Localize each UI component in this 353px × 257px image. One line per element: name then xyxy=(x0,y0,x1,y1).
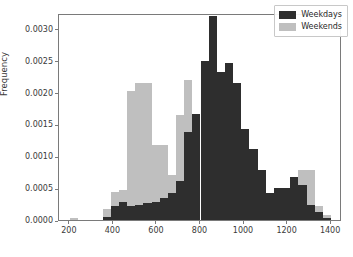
histogram-bar xyxy=(135,205,143,220)
legend-label-weekdays: Weekdays xyxy=(301,9,342,21)
histogram-bar xyxy=(233,83,241,220)
legend-item-weekends: Weekends xyxy=(279,21,342,33)
legend: Weekdays Weekends xyxy=(274,5,348,37)
histogram-bar xyxy=(111,206,119,220)
x-tick-label: 600 xyxy=(148,225,163,237)
histogram-bar xyxy=(135,83,143,220)
plot-area xyxy=(58,14,341,221)
x-tick-mark xyxy=(199,221,200,224)
histogram-bar xyxy=(160,198,168,220)
x-tick-label: 1000 xyxy=(233,225,253,237)
histogram-bar xyxy=(298,185,306,220)
histogram-bar xyxy=(127,206,135,220)
y-tick-label: 0.0025 xyxy=(25,56,53,68)
y-tick-label: 0.0030 xyxy=(25,24,53,36)
histogram-bar xyxy=(143,83,151,220)
y-tick-label: 0.0000 xyxy=(25,215,53,227)
histogram-bar xyxy=(225,63,233,220)
histogram-bar xyxy=(241,129,249,220)
x-tick-mark xyxy=(243,221,244,224)
x-tick-mark xyxy=(112,221,113,224)
histogram-bar xyxy=(143,203,151,220)
x-tick-mark xyxy=(330,221,331,224)
histogram-bar xyxy=(217,72,225,220)
histogram-bar xyxy=(176,181,184,220)
histogram-bar xyxy=(209,16,217,220)
histogram-bar xyxy=(249,149,257,220)
x-tick-label: 200 xyxy=(61,225,76,237)
histogram-bar xyxy=(201,61,209,220)
y-tick-label: 0.0015 xyxy=(25,119,53,131)
histogram-bar xyxy=(127,91,135,220)
histogram-bar xyxy=(290,177,298,220)
y-axis: Frequency 0.00000.00050.00100.00150.0020… xyxy=(0,14,58,221)
legend-swatch-weekends xyxy=(279,23,296,31)
histogram-bar xyxy=(282,188,290,220)
y-axis-label: Frequency xyxy=(0,52,9,96)
x-tick-label: 1400 xyxy=(320,225,340,237)
histogram-bar xyxy=(152,202,160,220)
y-tick-label: 0.0005 xyxy=(25,183,53,195)
histogram-bar xyxy=(184,132,192,220)
histogram-bar xyxy=(323,218,331,220)
x-tick-mark xyxy=(155,221,156,224)
x-tick-mark xyxy=(68,221,69,224)
x-tick-label: 800 xyxy=(192,225,207,237)
legend-swatch-weekdays xyxy=(279,11,296,19)
x-axis: 200400600800100012001400 xyxy=(58,221,341,251)
histogram-bars xyxy=(59,15,340,220)
histogram-bar xyxy=(168,193,176,220)
histogram-bar xyxy=(103,217,111,220)
y-tick-label: 0.0020 xyxy=(25,88,53,100)
x-tick-mark xyxy=(286,221,287,224)
x-tick-label: 1200 xyxy=(276,225,296,237)
histogram-figure: Frequency 0.00000.00050.00100.00150.0020… xyxy=(0,0,353,257)
histogram-bar xyxy=(307,205,315,220)
histogram-bar xyxy=(119,202,127,220)
x-tick-label: 400 xyxy=(105,225,120,237)
histogram-bar xyxy=(266,193,274,220)
histogram-bar xyxy=(258,170,266,220)
histogram-bar xyxy=(274,188,282,220)
histogram-bar xyxy=(192,114,200,220)
legend-item-weekdays: Weekdays xyxy=(279,9,342,21)
y-tick-label: 0.0010 xyxy=(25,151,53,163)
histogram-bar xyxy=(315,212,323,220)
histogram-bar xyxy=(70,218,78,220)
legend-label-weekends: Weekends xyxy=(301,21,342,33)
